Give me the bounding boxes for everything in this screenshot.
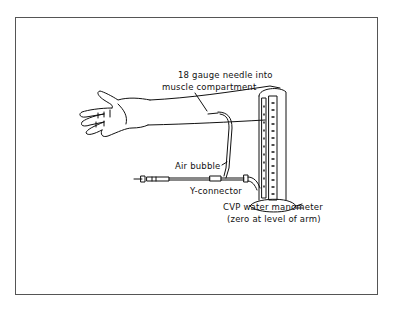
manometer-label-line1: CVP water manometer	[223, 202, 323, 212]
syringe-icon	[134, 176, 169, 182]
air-bubble-label: Air bubble	[175, 161, 221, 171]
manometer-icon	[250, 89, 303, 212]
needle-label-line2: muscle compartment	[162, 82, 256, 92]
diagram-illustration	[0, 0, 395, 312]
needle-label-line1: 18 gauge needle into	[178, 70, 273, 80]
y-connector-label: Y-connector	[190, 186, 242, 196]
manometer-label-line2: (zero at level of arm)	[227, 214, 321, 224]
hand-icon	[80, 91, 150, 137]
